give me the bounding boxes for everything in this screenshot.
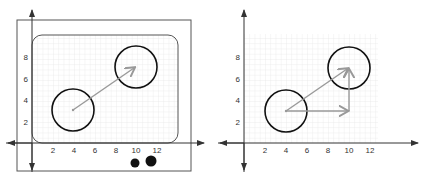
small-dot (131, 159, 140, 168)
y-tick-labels: 2 4 6 8 (24, 53, 29, 127)
x-tick: 8 (114, 146, 119, 155)
x-tick: 2 (51, 146, 56, 155)
left-panel: 2 4 6 8 10 12 2 4 6 8 (6, 10, 204, 172)
y-tick: 8 (24, 53, 29, 62)
x-tick: 6 (93, 146, 98, 155)
x-tick: 6 (305, 146, 310, 155)
y-tick: 4 (24, 96, 29, 105)
y-tick: 6 (24, 75, 29, 84)
x-tick: 2 (263, 146, 268, 155)
x-tick: 12 (153, 146, 162, 155)
y-tick: 2 (236, 118, 241, 127)
x-tick: 10 (345, 146, 354, 155)
x-tick: 12 (366, 146, 375, 155)
grid-area (244, 34, 378, 143)
y-tick-labels: 2 4 6 8 (236, 53, 241, 127)
diagram-canvas: 2 4 6 8 10 12 2 4 6 8 2 4 6 8 1 (0, 0, 428, 177)
x-tick-labels: 2 4 6 8 10 12 (263, 146, 375, 155)
right-panel: 2 4 6 8 10 12 2 4 6 8 (218, 10, 418, 172)
y-tick: 2 (24, 118, 29, 127)
y-tick: 6 (236, 75, 241, 84)
x-tick: 4 (284, 146, 289, 155)
x-tick: 10 (132, 146, 141, 155)
x-tick: 8 (326, 146, 331, 155)
rounded-grid-area (32, 35, 178, 143)
y-tick: 8 (236, 53, 241, 62)
y-tick: 4 (236, 96, 241, 105)
x-tick: 4 (72, 146, 77, 155)
x-tick-labels: 2 4 6 8 10 12 (51, 146, 162, 155)
large-dot (146, 156, 157, 167)
